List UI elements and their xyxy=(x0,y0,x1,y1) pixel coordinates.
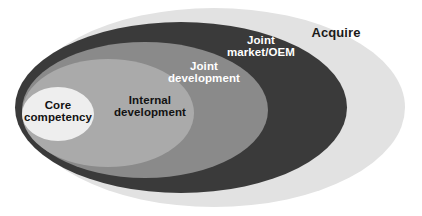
ellipse-core-competency xyxy=(22,87,94,141)
nested-ellipse-diagram xyxy=(0,0,422,216)
diagram-canvas: Acquire Joint market/OEM Joint developme… xyxy=(0,0,422,216)
